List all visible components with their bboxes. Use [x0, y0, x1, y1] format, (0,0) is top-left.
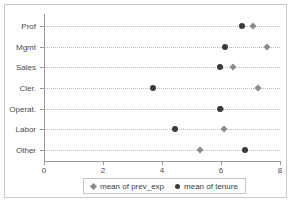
legend-entry-prev-exp[interactable]: mean of prev_exp	[91, 182, 164, 191]
x-tick	[103, 161, 104, 165]
y-tick	[40, 26, 44, 27]
marker-mean-of-tenure-cler	[150, 85, 156, 91]
y-tick	[40, 67, 44, 68]
marker-mean-of-tenure-sales	[217, 64, 223, 70]
y-tick	[40, 129, 44, 130]
marker-mean-of-tenure-other	[242, 147, 248, 153]
x-axis-label-2: 2	[101, 166, 105, 175]
legend-label-prev-exp: mean of prev_exp	[100, 182, 164, 191]
marker-mean-of-prev_exp-prof	[250, 23, 257, 30]
marker-mean-of-prev_exp-sales	[229, 64, 236, 71]
marker-mean-of-tenure-mgmt	[222, 44, 228, 50]
legend: mean of prev_exp mean of tenure	[83, 178, 246, 194]
circle-marker-icon	[175, 184, 180, 189]
y-axis-label-operat: Operat.	[9, 104, 36, 113]
x-tick	[221, 161, 222, 165]
legend-label-tenure: mean of tenure	[184, 182, 238, 191]
marker-mean-of-prev_exp-mgmt	[263, 43, 270, 50]
x-axis-label-4: 4	[160, 166, 164, 175]
x-tick	[280, 161, 281, 165]
x-tick	[44, 161, 45, 165]
y-axis-label-mgmt: Mgmt	[16, 42, 36, 51]
diamond-marker-icon	[90, 182, 97, 189]
gridline-operat	[44, 109, 280, 110]
x-axis-label-6: 6	[219, 166, 223, 175]
marker-mean-of-tenure-prof	[239, 23, 245, 29]
gridline-sales	[44, 67, 280, 68]
x-tick	[162, 161, 163, 165]
y-axis-label-sales: Sales	[16, 63, 36, 72]
y-axis-label-labor: Labor	[16, 125, 36, 134]
y-tick	[40, 88, 44, 89]
y-tick	[40, 150, 44, 151]
marker-mean-of-prev_exp-cler	[254, 84, 261, 91]
marker-mean-of-prev_exp-labor	[220, 126, 227, 133]
y-tick	[40, 109, 44, 110]
gridline-labor	[44, 129, 280, 130]
plot-area: ProfMgmtSalesCler.Operat.LaborOther 0246…	[44, 16, 280, 160]
y-axis-label-cler: Cler.	[20, 84, 36, 93]
y-axis-label-other: Other	[16, 145, 36, 154]
legend-entry-tenure[interactable]: mean of tenure	[175, 182, 238, 191]
marker-mean-of-prev_exp-other	[197, 146, 204, 153]
x-axis-label-8: 8	[278, 166, 282, 175]
marker-mean-of-tenure-operat	[217, 106, 223, 112]
y-axis-label-prof: Prof	[21, 22, 36, 31]
gridline-mgmt	[44, 47, 280, 48]
y-tick	[40, 47, 44, 48]
x-axis-label-0: 0	[42, 166, 46, 175]
chart-container: ProfMgmtSalesCler.Operat.LaborOther 0246…	[0, 0, 291, 202]
gridline-cler	[44, 88, 280, 89]
marker-mean-of-tenure-labor	[172, 126, 178, 132]
